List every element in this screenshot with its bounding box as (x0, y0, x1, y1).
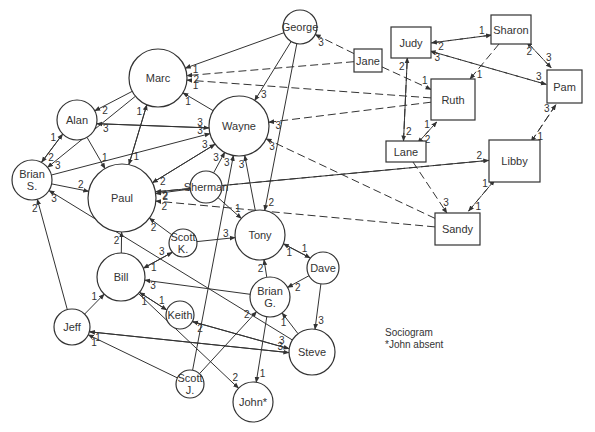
node-label: K. (178, 243, 188, 255)
edge-rank-label: 3 (159, 246, 165, 257)
edge-rank-label: 3 (546, 52, 552, 63)
edge-rank-label: 2 (160, 176, 166, 187)
node-sherman: Sherman (184, 171, 229, 203)
edge-rank-label: 3 (239, 159, 245, 170)
edge-rank-label: 1 (159, 295, 165, 306)
edge-rank-label: 2 (233, 372, 239, 383)
edge-rank-label: 3 (213, 152, 219, 163)
node-paul: Paul (88, 164, 156, 232)
edge-rank-label: 2 (151, 222, 157, 233)
node-label: Steve (298, 346, 326, 358)
edge-rank-label: 3 (276, 120, 282, 131)
node-label: Jeff (63, 321, 81, 333)
edge-rank-label: 2 (32, 203, 38, 214)
sociogram-diagram: 1213132321311332113232321333222322231311… (0, 0, 595, 432)
edge-rank-label: 3 (150, 280, 156, 291)
edge-rank-label: 3 (544, 103, 550, 114)
nodes-layer: GeorgeMarcAlanWayneBrianS.PaulShermanTon… (12, 10, 582, 422)
node-ruth: Ruth (431, 79, 475, 120)
node-label: Wayne (222, 120, 256, 132)
node-label: S. (27, 180, 37, 192)
edge-scottk-to-tony (197, 238, 235, 242)
edge-sandy-to-paul (156, 201, 435, 227)
edge-wayne-to-alan (97, 124, 209, 128)
edge-rank-label: 3 (443, 197, 449, 208)
edge-rank-label: 2 (406, 126, 412, 137)
edge-sharon-to-ruth (470, 44, 499, 79)
node-label: Dave (310, 262, 336, 274)
node-jane: Jane (354, 49, 382, 72)
node-scottj: ScottJ. (176, 370, 204, 398)
edge-rank-label: 2 (102, 105, 108, 116)
node-label: G. (264, 297, 276, 309)
node-label: Tony (248, 229, 272, 241)
edge-rank-label: 3 (269, 141, 275, 152)
edge-rank-label: 3 (51, 193, 57, 204)
edge-scottj-to-briang (200, 312, 257, 374)
edge-rank-label: 1 (91, 337, 97, 348)
edge-rank-label: 1 (422, 75, 428, 86)
edge-rank-label: 3 (318, 315, 324, 326)
edge-rank-label: 2 (78, 179, 84, 190)
edge-rank-label: 1 (260, 368, 266, 379)
edge-rank-label: 1 (424, 119, 430, 130)
edge-rank-label: 1 (475, 201, 481, 212)
edge-briang-to-tony (264, 260, 267, 278)
edge-rank-label: 1 (92, 291, 98, 302)
node-label: Brian (19, 168, 45, 180)
edge-rank-label: 3 (261, 89, 267, 100)
node-label: Libby (501, 155, 528, 167)
node-label: Alan (66, 114, 88, 126)
edge-rank-label: 3 (103, 123, 109, 134)
node-label: Bill (114, 271, 129, 283)
node-label: Scott (177, 372, 202, 384)
node-label: Ruth (441, 94, 464, 106)
edge-rank-label: 1 (185, 96, 191, 107)
node-label: Sharon (493, 24, 528, 36)
legend: Sociogram *John absent (385, 327, 444, 350)
node-jeff: Jeff (54, 309, 90, 345)
node-alan: Alan (57, 100, 97, 140)
edge-rank-label: 2 (197, 323, 203, 334)
legend-note: *John absent (385, 339, 444, 350)
edge-rank-label: 1 (193, 80, 199, 91)
edge-rank-label: 1 (477, 69, 483, 80)
edge-jane-to-marc (187, 62, 354, 76)
edge-rank-label: 1 (286, 247, 292, 258)
edge-rank-label: 3 (197, 125, 203, 136)
edge-steve-to-keith (193, 322, 289, 349)
node-keith: Keith (166, 301, 194, 329)
node-label: Scott (170, 231, 195, 243)
edge-rank-label: 3 (202, 139, 208, 150)
node-label: Lane (394, 146, 418, 158)
edge-rank-label: 1 (137, 106, 143, 117)
edge-rank-label: 1 (302, 243, 308, 254)
node-bill: Bill (97, 253, 145, 301)
node-tony: Tony (235, 210, 285, 260)
node-label: Marc (146, 72, 171, 84)
edge-rank-label: 1 (479, 25, 485, 36)
node-sharon: Sharon (491, 15, 531, 44)
node-dave: Dave (307, 252, 339, 284)
edge-rank-label: 1 (281, 317, 287, 328)
edge-ruth-to-marc (187, 80, 431, 98)
edge-rank-label: 2 (269, 197, 275, 208)
legend-title: Sociogram (385, 327, 433, 338)
edge-briang-to-bill (145, 280, 250, 294)
edge-rank-label: 3 (278, 341, 284, 352)
node-label: Sherman (184, 181, 229, 193)
node-label: George (282, 21, 319, 33)
node-libby: Libby (489, 140, 540, 182)
edge-george-to-marc (185, 33, 284, 68)
edge-rank-label: 2 (162, 201, 168, 212)
node-john: John* (233, 382, 273, 422)
edge-marc-to-alan (95, 91, 133, 111)
edge-jeff-to-brians (37, 199, 67, 309)
node-briang: BrianG. (250, 277, 290, 317)
edge-rank-label: 2 (244, 309, 250, 320)
edge-rank-label: 2 (438, 41, 444, 52)
node-steve: Steve (289, 329, 335, 375)
node-label: Brian (257, 285, 283, 297)
node-scottk: ScottK. (169, 229, 197, 257)
edge-rank-label: 2 (162, 190, 168, 201)
